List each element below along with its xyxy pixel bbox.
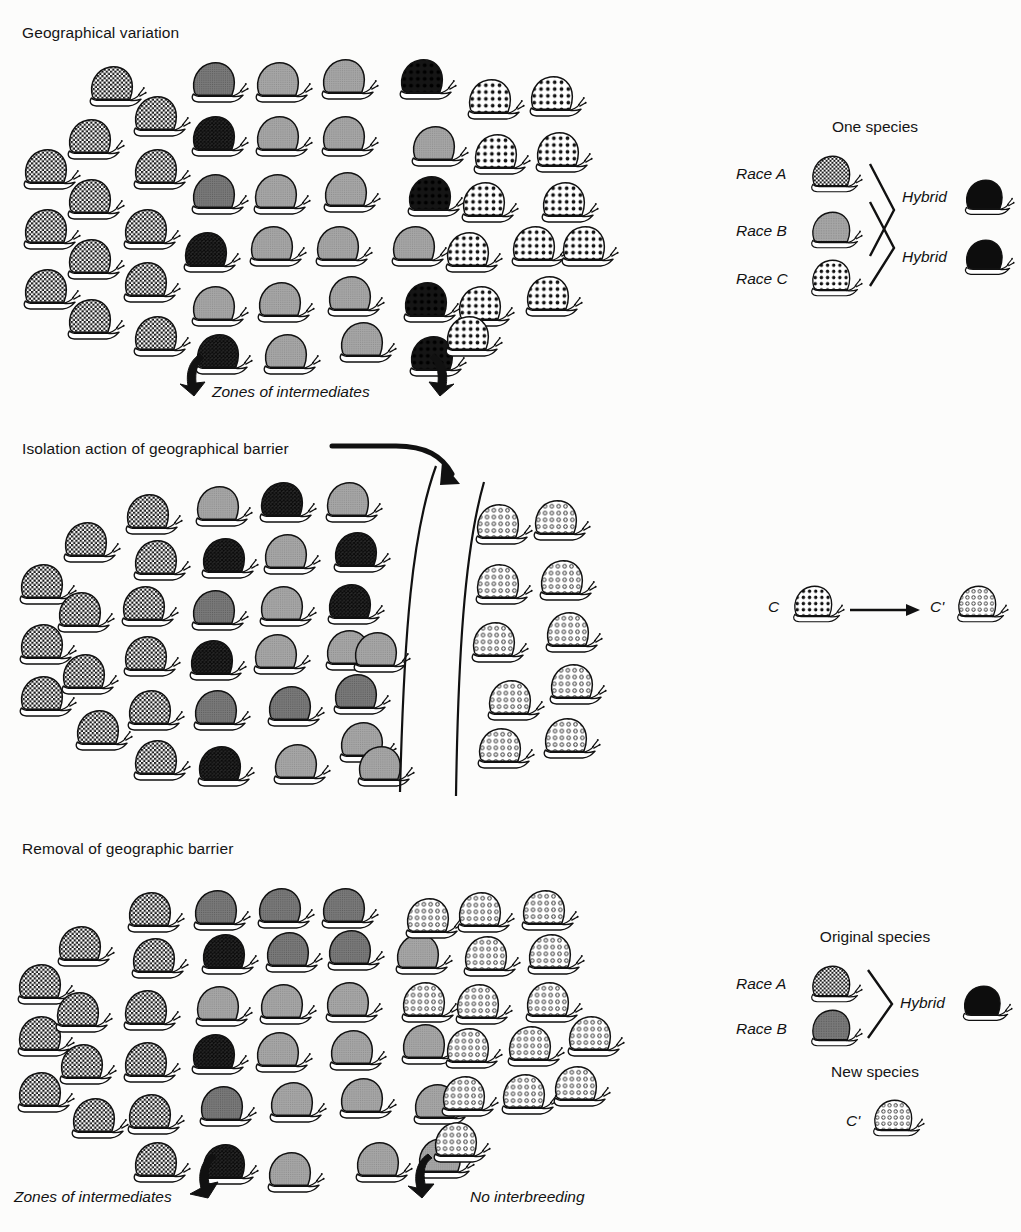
- snail-solid-gray: [254, 980, 316, 1030]
- snail-open-rings: [562, 1012, 624, 1062]
- snail-checkered: [118, 1038, 180, 1088]
- snail-checkered: [54, 1040, 116, 1090]
- arrow-up-left-panel3: [186, 1152, 230, 1200]
- legend-title-new-species: New species: [735, 1063, 1015, 1081]
- legend-snail-c-prime: [952, 582, 1008, 627]
- snail-checkered: [50, 988, 112, 1038]
- arrow-up-right-panel3: [408, 1152, 452, 1200]
- snail-checkered: [66, 1094, 128, 1144]
- legend-title-original-species: Original species: [735, 928, 1015, 946]
- snail-solid-gray: [262, 1148, 324, 1198]
- snail-checkered: [118, 986, 180, 1036]
- snail-dark-gray: [188, 886, 250, 936]
- snail-open-rings: [436, 1072, 498, 1122]
- caption-no-interbreeding: No interbreeding: [470, 1188, 585, 1206]
- legend-label-hybrid-bottom: Hybrid: [900, 994, 945, 1012]
- legend-snail-race-c-top: [806, 256, 862, 301]
- legend-title-one-species: One species: [735, 118, 1015, 136]
- legend-snail-hybrid-top-2: [960, 236, 1014, 279]
- right-arrow-icon: [848, 600, 928, 622]
- legend-label-race-c-top: Race C: [736, 270, 788, 288]
- snail-checkered: [52, 922, 114, 972]
- legend-label-race-b-bottom: Race B: [736, 1020, 787, 1038]
- snail-dark-gray: [252, 884, 314, 934]
- legend-snail-c-prime-new: [868, 1096, 924, 1141]
- legend-label-c-prime-new: C': [846, 1112, 860, 1130]
- snail-open-rings: [458, 932, 520, 982]
- snail-checkered: [128, 1138, 190, 1188]
- legend-snail-c: [788, 582, 844, 627]
- snail-dark-crosshatch: [196, 930, 258, 980]
- legend-label-hybrid-top-2: Hybrid: [902, 248, 947, 266]
- snail-open-rings: [440, 1024, 502, 1074]
- snail-solid-gray: [334, 1074, 396, 1124]
- legend-snail-race-a-bottom: [806, 962, 862, 1007]
- legend-snail-race-b-bottom: [806, 1006, 862, 1051]
- legend-snail-race-a-top: [806, 152, 862, 197]
- legend-label-race-a-bottom: Race A: [736, 975, 786, 993]
- snail-open-rings: [548, 1062, 610, 1112]
- legend-one-species: One species: [735, 118, 1015, 136]
- snail-checkered: [122, 1090, 184, 1140]
- snail-open-rings: [516, 886, 578, 936]
- snail-dark-crosshatch: [186, 1030, 248, 1080]
- caption-zones-of-intermediates-panel3: Zones of intermediates: [14, 1188, 172, 1206]
- snail-checkered: [122, 888, 184, 938]
- snail-open-rings: [396, 978, 458, 1028]
- figure-canvas: Geographical variation Zones of intermed…: [0, 0, 1021, 1232]
- population-cluster-panel3: [0, 0, 700, 1232]
- legend-original-species: Original species: [735, 928, 1015, 946]
- legend-snail-hybrid-top-1: [960, 176, 1014, 219]
- snail-dark-gray: [194, 1082, 256, 1132]
- legend-snail-hybrid-bottom: [958, 982, 1012, 1025]
- snail-solid-gray: [320, 978, 382, 1028]
- snail-solid-gray: [324, 1026, 386, 1076]
- snail-solid-gray: [250, 1028, 312, 1078]
- legend-label-c: C: [768, 598, 779, 616]
- legend-new-species: New species: [735, 1063, 1015, 1081]
- snail-solid-gray: [350, 1138, 412, 1188]
- snail-dark-gray: [322, 926, 384, 976]
- snail-open-rings: [452, 888, 514, 938]
- snail-solid-gray: [190, 982, 252, 1032]
- snail-dark-gray: [260, 928, 322, 978]
- legend-snail-race-b-top: [806, 208, 862, 253]
- bracket-hybrid-top: [868, 160, 914, 290]
- legend-label-c-prime: C': [930, 598, 944, 616]
- snail-solid-gray: [264, 1078, 326, 1128]
- legend-label-hybrid-top-1: Hybrid: [902, 188, 947, 206]
- legend-label-race-b-top: Race B: [736, 222, 787, 240]
- snail-checkered: [126, 934, 188, 984]
- snail-open-rings: [522, 930, 584, 980]
- legend-label-race-a-top: Race A: [736, 165, 786, 183]
